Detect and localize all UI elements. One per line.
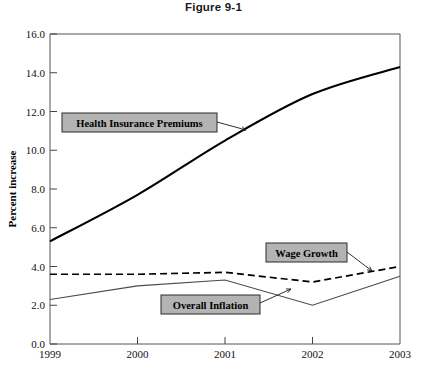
y-tick-label-6: 12.0 <box>26 106 46 118</box>
y-tick-label-5: 10.0 <box>26 144 46 156</box>
x-axis: 1999 2000 2001 2002 2003 <box>39 337 412 360</box>
callout-label-wage-growth: Wage Growth <box>275 248 338 259</box>
figure-container: Figure 9-1 0.0 2.0 4.0 6.0 8.0 10.0 12.0… <box>0 0 427 367</box>
annotation-wage-growth: Wage Growth <box>266 243 347 262</box>
series-line-health-insurance-premiums <box>50 67 400 241</box>
x-tick-label-1999: 1999 <box>39 348 62 360</box>
y-tick-label-2: 4.0 <box>31 261 45 273</box>
annotation-overall-inflation: Overall Inflation <box>161 295 260 314</box>
x-tick-label-2001: 2001 <box>214 348 236 360</box>
callout-label-overall-inflation: Overall Inflation <box>173 300 249 311</box>
leader-line <box>347 252 372 271</box>
leader-line <box>217 122 246 130</box>
line-chart: 0.0 2.0 4.0 6.0 8.0 10.0 12.0 14.0 16.0 … <box>0 0 427 367</box>
y-tick-label-3: 6.0 <box>31 222 45 234</box>
y-tick-label-4: 8.0 <box>31 183 45 195</box>
x-tick-label-2002: 2002 <box>302 348 324 360</box>
x-tick-label-2000: 2000 <box>127 348 150 360</box>
y-tick-label-8: 16.0 <box>26 28 46 40</box>
annotation-health-insurance-premiums: Health Insurance Premiums <box>62 113 217 132</box>
y-tick-label-1: 2.0 <box>31 299 45 311</box>
x-tick-label-2003: 2003 <box>389 348 412 360</box>
y-tick-label-7: 14.0 <box>26 67 46 79</box>
y-axis-title: Percent increase <box>6 150 18 227</box>
callout-label-premiums: Health Insurance Premiums <box>76 118 202 129</box>
y-axis: 0.0 2.0 4.0 6.0 8.0 10.0 12.0 14.0 16.0 <box>26 28 57 350</box>
